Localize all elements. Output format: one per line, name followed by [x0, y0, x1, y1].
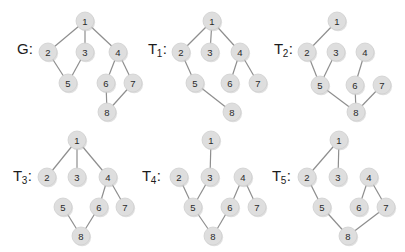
graph-node[interactable]: 6 — [90, 198, 109, 217]
node-circle[interactable] — [328, 12, 346, 30]
panel-label-main: T — [148, 40, 157, 57]
graph-node[interactable]: 7 — [116, 198, 135, 217]
panel-label-colon: : — [28, 167, 32, 184]
node-circle[interactable] — [249, 74, 267, 92]
node-circle[interactable] — [124, 74, 142, 92]
graph-node[interactable]: 3 — [201, 168, 220, 187]
node-circle[interactable] — [330, 131, 348, 149]
node-circle[interactable] — [234, 168, 252, 186]
node-circle[interactable] — [90, 198, 108, 216]
graph-node[interactable]: 7 — [373, 76, 392, 95]
node-circle[interactable] — [356, 43, 374, 61]
node-circle[interactable] — [221, 74, 239, 92]
node-circle[interactable] — [186, 74, 204, 92]
node-circle[interactable] — [109, 43, 127, 61]
graph-node[interactable]: 3 — [329, 168, 348, 187]
graph-node[interactable]: 1 — [203, 12, 222, 31]
graph-node[interactable]: 4 — [109, 43, 128, 62]
node-circle[interactable] — [170, 168, 188, 186]
panel-label-main: T — [13, 167, 22, 184]
node-circle[interactable] — [38, 168, 56, 186]
node-circle[interactable] — [373, 76, 391, 94]
node-circle[interactable] — [329, 168, 347, 186]
graph-node[interactable]: 2 — [298, 43, 317, 62]
graph-node[interactable]: 6 — [221, 198, 240, 217]
graph-node[interactable]: 4 — [356, 43, 375, 62]
node-circle[interactable] — [360, 168, 378, 186]
panel-label-t1: T1: — [148, 41, 167, 56]
node-circle[interactable] — [346, 76, 364, 94]
graph-node[interactable]: 8 — [72, 227, 91, 246]
node-circle[interactable] — [201, 43, 219, 61]
node-circle[interactable] — [184, 198, 202, 216]
node-circle[interactable] — [98, 103, 116, 121]
node-group: 12345678 — [298, 12, 392, 122]
graph-node[interactable]: 2 — [298, 168, 317, 187]
graph-node[interactable]: 5 — [313, 198, 332, 217]
node-circle[interactable] — [97, 74, 115, 92]
graph-node[interactable]: 3 — [68, 168, 87, 187]
graph-node[interactable]: 8 — [98, 103, 117, 122]
node-circle[interactable] — [172, 43, 190, 61]
node-circle[interactable] — [298, 168, 316, 186]
node-circle[interactable] — [202, 131, 220, 149]
graph-node[interactable]: 5 — [54, 198, 73, 217]
graph-node[interactable]: 3 — [76, 43, 95, 62]
node-circle[interactable] — [54, 198, 72, 216]
node-circle[interactable] — [223, 103, 241, 121]
graph-node[interactable]: 8 — [204, 227, 223, 246]
graph-node[interactable]: 6 — [346, 76, 365, 95]
graph-node[interactable]: 2 — [170, 168, 189, 187]
node-circle[interactable] — [68, 168, 86, 186]
graph-node[interactable]: 8 — [347, 103, 366, 122]
graph-node[interactable]: 7 — [248, 198, 267, 217]
graph-node[interactable]: 7 — [377, 198, 396, 217]
node-circle[interactable] — [327, 43, 345, 61]
panel-label-t2: T2: — [274, 41, 293, 56]
graph-node[interactable]: 1 — [202, 131, 221, 150]
graph-node[interactable]: 4 — [234, 168, 253, 187]
node-circle[interactable] — [68, 131, 86, 149]
node-circle[interactable] — [76, 12, 94, 30]
graph-panel-g: 12345678 — [39, 12, 143, 122]
node-circle[interactable] — [339, 227, 357, 245]
graph-node[interactable]: 6 — [221, 74, 240, 93]
node-circle[interactable] — [39, 43, 57, 61]
node-circle[interactable] — [203, 12, 221, 30]
graph-node[interactable]: 2 — [38, 168, 57, 187]
node-circle[interactable] — [347, 103, 365, 121]
graph-node[interactable]: 6 — [350, 198, 369, 217]
node-circle[interactable] — [248, 198, 266, 216]
node-circle[interactable] — [221, 198, 239, 216]
graph-node[interactable]: 5 — [311, 76, 330, 95]
node-circle[interactable] — [116, 198, 134, 216]
graph-node[interactable]: 3 — [327, 43, 346, 62]
node-circle[interactable] — [76, 43, 94, 61]
node-circle[interactable] — [350, 198, 368, 216]
graph-node[interactable]: 4 — [99, 168, 118, 187]
graph-node[interactable]: 5 — [59, 74, 78, 93]
graph-node[interactable]: 5 — [186, 74, 205, 93]
graph-node[interactable]: 2 — [172, 43, 191, 62]
graph-node[interactable]: 8 — [223, 103, 242, 122]
node-circle[interactable] — [201, 168, 219, 186]
node-circle[interactable] — [59, 74, 77, 92]
node-circle[interactable] — [311, 76, 329, 94]
panel-label-main: T — [272, 167, 281, 184]
node-circle[interactable] — [204, 227, 222, 245]
edge-group — [181, 21, 258, 112]
node-circle[interactable] — [298, 43, 316, 61]
graph-node[interactable]: 5 — [184, 198, 203, 217]
node-circle[interactable] — [313, 198, 331, 216]
graph-node[interactable]: 6 — [97, 74, 116, 93]
graph-node[interactable]: 3 — [201, 43, 220, 62]
node-circle[interactable] — [72, 227, 90, 245]
graph-node[interactable]: 7 — [249, 74, 268, 93]
graph-node[interactable]: 1 — [76, 12, 95, 31]
graph-node[interactable]: 1 — [328, 12, 347, 31]
graph-node[interactable]: 4 — [231, 43, 250, 62]
node-circle[interactable] — [99, 168, 117, 186]
node-circle[interactable] — [377, 198, 395, 216]
graph-node[interactable]: 4 — [360, 168, 379, 187]
node-circle[interactable] — [231, 43, 249, 61]
